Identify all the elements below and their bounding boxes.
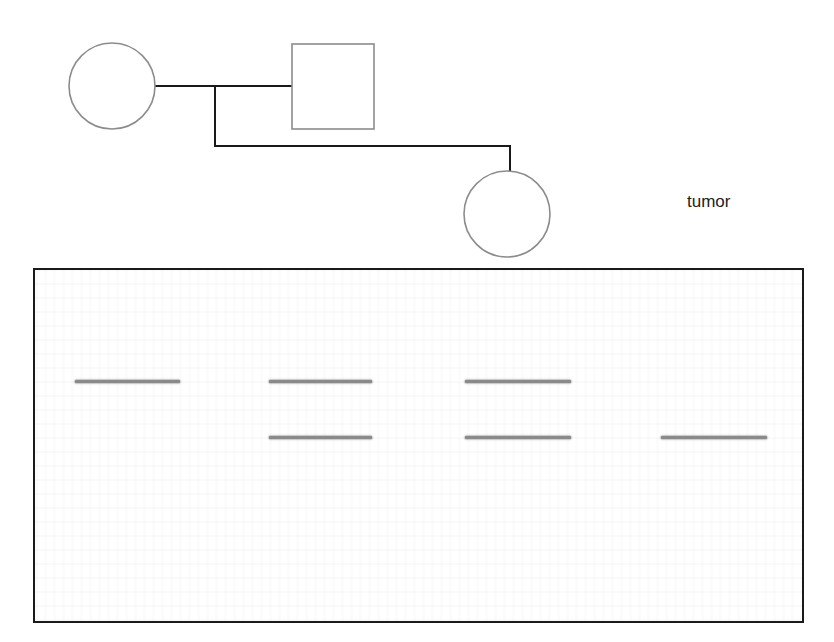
female-parent-symbol [69,43,155,129]
gel-electrophoresis-panel [33,268,804,623]
gel-band-lane-2-lower-allele [269,436,372,439]
gel-band-lane-3-lower-allele [465,436,571,439]
pedigree-chart [0,0,834,270]
gel-band-lane-1-upper-allele [75,380,180,383]
male-parent-symbol [292,44,374,129]
gel-band-lane-3-upper-allele [465,380,571,383]
female-child-symbol [464,171,550,257]
tumor-label: tumor [687,192,730,212]
gel-band-lane-4-lower-allele [661,436,767,439]
gel-band-lane-2-upper-allele [269,380,372,383]
